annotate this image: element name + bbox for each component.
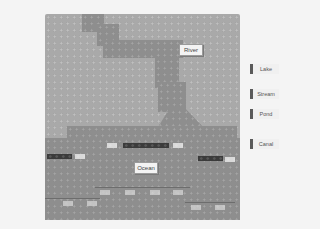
light-brick — [107, 143, 117, 148]
light-brick — [215, 205, 225, 210]
river-label-tile: River — [179, 44, 203, 56]
lego-baseplate: River Ocean — [45, 14, 240, 220]
light-brick — [87, 201, 97, 206]
light-brick — [191, 205, 201, 210]
light-brick — [173, 143, 183, 148]
ocean-area — [45, 138, 240, 220]
ocean-ledge — [45, 198, 100, 199]
ocean-ledge — [185, 202, 235, 203]
ocean-ledge — [95, 187, 190, 188]
light-brick — [150, 190, 160, 195]
light-brick — [173, 190, 183, 195]
dark-brick — [198, 156, 223, 161]
light-brick — [225, 157, 235, 162]
dark-brick — [47, 154, 72, 159]
light-brick — [63, 201, 73, 206]
dark-brick — [123, 143, 169, 148]
river-segment — [158, 82, 186, 112]
light-brick — [125, 190, 135, 195]
ocean-label-tile: Ocean — [134, 162, 158, 174]
canal-label-tile: Canal — [253, 139, 279, 149]
light-brick — [100, 190, 110, 195]
pond-label-tile: Pond — [253, 109, 279, 119]
light-brick — [75, 154, 85, 159]
stream-label-tile: Stream — [253, 89, 279, 99]
lake-label-tile: Lake — [253, 64, 279, 74]
